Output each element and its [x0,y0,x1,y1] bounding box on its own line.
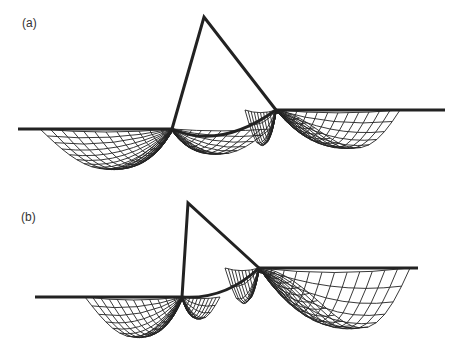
panel-a-outline [18,17,445,136]
panel-b-outline [35,203,418,297]
mesh-diagram [0,0,458,350]
panel-a-mesh [40,110,400,170]
